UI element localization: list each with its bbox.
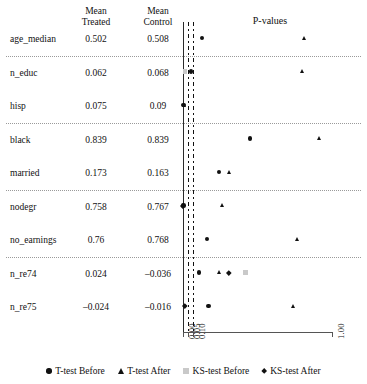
legend-item: KS-test Before xyxy=(183,366,249,376)
chart-legend: T-test BeforeT-test AfterKS-test BeforeK… xyxy=(0,362,367,380)
data-point-marker xyxy=(197,270,201,274)
data-point-marker xyxy=(183,69,187,73)
data-point-marker xyxy=(189,69,193,73)
legend-label: KS-test Before xyxy=(193,366,250,376)
x-axis-tick xyxy=(193,332,194,337)
mean-control-value: –0.036 xyxy=(126,268,190,280)
x-axis-tick xyxy=(183,332,184,337)
mean-treated-value: 0.758 xyxy=(64,201,128,213)
data-point-marker xyxy=(295,237,299,241)
pvalue-scatter-panel xyxy=(183,22,367,332)
mean-control-value: 0.839 xyxy=(126,134,190,146)
data-point-marker xyxy=(302,36,306,40)
reference-line-0-1 xyxy=(193,22,194,332)
data-point-marker xyxy=(200,36,204,40)
column-header-mean-treated: Mean Treated xyxy=(64,6,128,27)
square-icon xyxy=(183,368,189,374)
data-point-marker xyxy=(243,270,247,274)
data-point-marker xyxy=(217,270,221,274)
triangle-icon xyxy=(118,368,124,374)
data-point-marker xyxy=(220,203,224,207)
mean-treated-value: 0.075 xyxy=(64,100,128,112)
mean-treated-value: 0.024 xyxy=(64,268,128,280)
mean-control-value: 0.068 xyxy=(126,67,190,79)
mean-control-value: 0.768 xyxy=(126,234,190,246)
mean-treated-value: 0.502 xyxy=(64,33,128,45)
legend-label: T-test Before xyxy=(55,366,105,376)
x-axis-tick-label: 0.10 xyxy=(197,323,207,339)
mean-treated-value: 0.76 xyxy=(64,234,128,246)
legend-item: T-test Before xyxy=(46,366,104,376)
legend-item: T-test After xyxy=(118,366,171,376)
legend-item: KS-test After xyxy=(262,366,320,376)
circle-icon xyxy=(46,368,51,373)
mean-control-value: –0.016 xyxy=(126,301,190,313)
column-header-mean-control: Mean Control xyxy=(126,6,190,27)
data-point-marker xyxy=(217,170,221,174)
mean-control-value: 0.163 xyxy=(126,167,190,179)
data-point-marker xyxy=(206,304,210,308)
legend-label: T-test After xyxy=(127,366,170,376)
balance-plot-figure: Mean Treated Mean Control P-values age_m… xyxy=(0,0,367,384)
data-point-marker xyxy=(205,237,209,241)
x-axis-tick-label: 1.00 xyxy=(336,323,346,339)
mean-treated-value: 0.173 xyxy=(64,167,128,179)
data-point-marker xyxy=(300,69,304,73)
x-axis-tick xyxy=(332,332,333,337)
data-point-marker xyxy=(291,304,295,308)
mean-treated-value: 0.062 xyxy=(64,67,128,79)
legend-label: KS-test After xyxy=(270,366,320,376)
data-point-marker xyxy=(227,170,231,174)
data-point-marker xyxy=(248,136,252,140)
diamond-icon xyxy=(261,368,267,374)
data-point-marker xyxy=(226,270,231,275)
data-point-marker xyxy=(317,136,321,140)
mean-treated-value: –0.024 xyxy=(64,301,128,313)
mean-control-value: 0.508 xyxy=(126,33,190,45)
x-axis-tick xyxy=(188,332,189,337)
mean-treated-value: 0.839 xyxy=(64,134,128,146)
data-point-marker xyxy=(182,103,186,107)
